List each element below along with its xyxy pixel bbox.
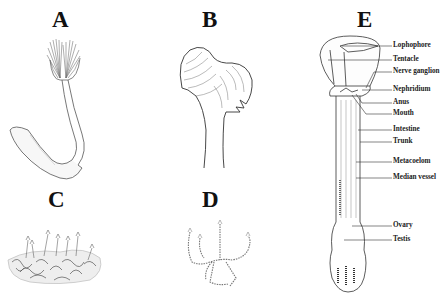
panel-e-illustration — [320, 36, 392, 292]
label-testis: Testis — [393, 236, 410, 243]
label-anus: Anus — [393, 99, 409, 106]
panel-c-illustration — [8, 230, 101, 284]
label-intestine: Intestine — [393, 126, 420, 133]
label-nephridium: Nephridium — [393, 86, 431, 93]
panel-b-illustration — [180, 47, 252, 168]
label-metacoelom: Metacoelom — [393, 158, 431, 165]
label-tentacle: Tentacle — [393, 56, 419, 63]
label-trunk: Trunk — [393, 138, 412, 145]
figure-illustrations — [0, 0, 444, 300]
panel-a-illustration — [10, 39, 84, 179]
label-lophophore: Lophophore — [393, 42, 431, 49]
label-ovary: Ovary — [393, 222, 413, 229]
label-mouth: Mouth — [393, 110, 414, 117]
label-nerve-ganglion: Nerve ganglion — [393, 68, 440, 75]
label-median-vessel: Median vessel — [393, 174, 436, 181]
panel-d-illustration — [188, 224, 250, 286]
